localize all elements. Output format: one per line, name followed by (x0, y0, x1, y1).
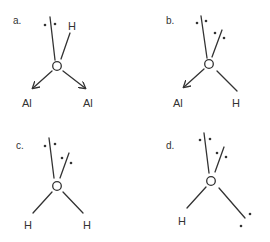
atom-al: Al (83, 97, 93, 109)
atom-oxygen (53, 62, 62, 71)
atom-al: Al (22, 97, 32, 109)
lone-pair-dot (54, 143, 57, 146)
panel-label-c: c. (16, 140, 24, 151)
lone-pair-dot (70, 162, 73, 165)
lone-pair-dot (196, 22, 199, 25)
lone-pair-dot (240, 225, 243, 228)
atom-h: H (178, 215, 186, 227)
panel-d: d. H (166, 133, 251, 227)
panel-a: a. H Al Al (13, 15, 93, 109)
lone-pair-dot (216, 152, 219, 155)
lone-pair-line (49, 138, 54, 178)
lone-pair-line (219, 188, 245, 218)
o-h-bond (187, 187, 206, 208)
dative-bond-arrow (63, 71, 85, 88)
panel-label-b: b. (166, 15, 174, 26)
lone-pair-dot (225, 156, 228, 159)
lone-pair-dot (205, 20, 208, 23)
lone-pair-line (212, 30, 222, 57)
panel-label-a: a. (13, 15, 21, 26)
lone-pair-line (215, 147, 224, 172)
atom-oxygen (207, 177, 216, 186)
lone-pair-dot (61, 157, 64, 160)
atom-h: H (83, 219, 91, 231)
lone-pair-dot (44, 145, 47, 148)
lone-pair-line (60, 153, 69, 178)
dative-bond-arrow (33, 71, 52, 88)
lone-pair-line (201, 16, 207, 58)
atom-h: H (24, 219, 32, 231)
o-h-bond (33, 192, 52, 213)
atom-h: H (232, 97, 240, 109)
panel-b: b. Al H (166, 15, 240, 109)
atom-oxygen (53, 182, 62, 191)
lone-pair-dot (214, 32, 217, 35)
lone-pair-dot (209, 138, 212, 141)
lone-pair-dot (223, 37, 226, 40)
lone-pair-dot (54, 23, 57, 26)
atom-h: H (68, 20, 76, 32)
dative-bond-arrow (184, 69, 204, 87)
o-h-bond (61, 33, 70, 59)
atom-oxygen (205, 60, 214, 69)
lone-pair-dot (199, 139, 202, 142)
lone-pair-dot (44, 24, 47, 27)
atom-al: Al (173, 97, 183, 109)
panel-c: c. H H (16, 138, 91, 231)
o-h-bond (63, 192, 83, 213)
lone-pair-line (204, 133, 209, 173)
oxygen-coordination-diagram: a. H Al Al b. Al H c. (0, 0, 270, 242)
panel-label-d: d. (166, 140, 174, 151)
o-h-bond (217, 71, 237, 91)
lone-pair-dot (249, 213, 252, 216)
